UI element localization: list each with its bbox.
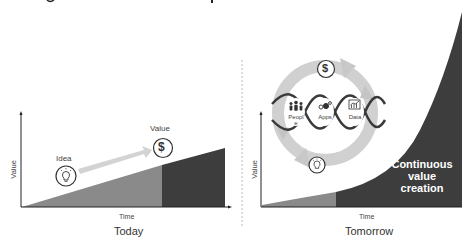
lightbulb-icon <box>309 157 325 173</box>
area-text-line1: Continuous <box>382 158 462 170</box>
today-dollar-glyph: $ <box>158 140 165 154</box>
today-caption: Today <box>114 225 143 237</box>
tomorrow-y-axis-label: Value <box>250 160 259 179</box>
node-apps-label: Apps <box>315 114 335 120</box>
continuous-value-creation-text: Continuous value creation <box>382 158 462 194</box>
node-data-line1: Data <box>345 114 365 120</box>
node-apps-line1: Apps <box>315 114 335 120</box>
area-text-line3: creation <box>382 182 462 194</box>
tomorrow-light-area <box>262 192 336 207</box>
diagram-canvas <box>0 0 469 247</box>
node-people-line2: e <box>286 120 306 126</box>
node-people-label: Peopl e <box>286 114 306 126</box>
lightbulb-icon <box>56 166 76 186</box>
tomorrow-x-axis-label: Time <box>359 213 374 220</box>
idea-to-value-arrow <box>78 146 152 174</box>
cycle-dollar-glyph: $ <box>322 62 328 74</box>
people-icon <box>290 101 303 111</box>
cropped-title-remnants <box>47 0 213 3</box>
today-chart <box>20 111 233 209</box>
node-data-label: Data <box>345 114 365 120</box>
today-light-area <box>22 165 162 207</box>
today-dark-area <box>162 148 225 207</box>
today-y-axis-label: Value <box>9 160 18 179</box>
tomorrow-caption: Tomorrow <box>345 225 393 237</box>
today-x-axis-label: Time <box>119 213 134 220</box>
area-text-line2: value <box>382 170 462 182</box>
value-label: Value <box>150 124 170 133</box>
idea-label: Idea <box>56 154 72 163</box>
